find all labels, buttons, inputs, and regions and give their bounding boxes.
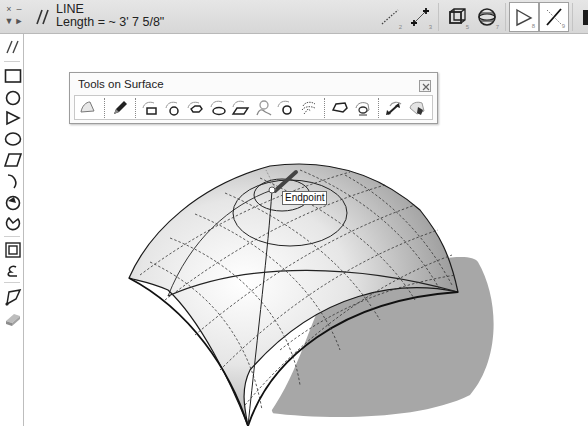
ellipse-tool-button[interactable]: [4, 130, 22, 148]
box-3d-button[interactable]: 5: [442, 2, 472, 32]
polyline-tool-button[interactable]: [4, 288, 22, 306]
line-cross-button[interactable]: 9: [539, 2, 569, 32]
shortcut-label: 5: [466, 24, 469, 30]
rectangle-tool-button[interactable]: [4, 67, 22, 85]
separator: [104, 98, 105, 118]
parallelogram-on-surface-icon: [231, 98, 250, 117]
separator: [378, 98, 379, 118]
eraser-icon: [4, 309, 22, 327]
shortcut-label: 7: [496, 24, 499, 30]
freehand-on-surface-icon: [254, 98, 273, 117]
pencil-icon: [110, 98, 129, 117]
triangle-icon: [4, 109, 22, 127]
endpoint-marker: [269, 187, 275, 193]
shortcut-label: 8: [532, 23, 535, 29]
circle-icon: [4, 89, 22, 107]
text-on-surface-icon: [299, 98, 318, 117]
shortcut-label: 2: [399, 24, 402, 30]
endpoint-tooltip: Endpoint: [282, 191, 327, 205]
separator: [4, 282, 20, 283]
minimize-icon[interactable]: –: [14, 3, 24, 15]
close-icon[interactable]: ×: [4, 3, 14, 15]
separator: [135, 98, 136, 118]
surface-select-icon: [78, 98, 97, 117]
separator: [324, 98, 325, 118]
double-slash-icon: [4, 38, 22, 56]
expand-icon[interactable]: ►: [14, 15, 24, 27]
freehand-icon: [4, 261, 22, 279]
top-toolbar: ×– ▼► LINE Length = ~ 3' 7 5/8" 2 3 5 7 …: [0, 0, 588, 34]
solid-box-icon: [580, 6, 588, 28]
toolbar-title: Tools on Surface: [78, 78, 164, 90]
freehand-tool-button[interactable]: [4, 261, 22, 279]
draw-line-button[interactable]: [109, 97, 130, 118]
arc-icon: [4, 172, 22, 190]
offset-on-surface-button[interactable]: [329, 97, 350, 118]
separator: [438, 3, 439, 31]
polygon-on-surface-icon: [186, 98, 205, 117]
geodesic-on-surface-button[interactable]: [352, 97, 373, 118]
arc-on-surface-button[interactable]: [275, 97, 296, 118]
surface-select-button[interactable]: [77, 97, 98, 118]
parallelogram-on-surface-button[interactable]: [230, 97, 251, 118]
polyline-icon: [4, 288, 22, 306]
tools-on-surface-toolbar[interactable]: Tools on Surface: [69, 72, 438, 124]
offset-square-icon: [4, 241, 22, 259]
dotted-line-button[interactable]: 2: [375, 2, 405, 32]
parallelogram-tool-button[interactable]: [4, 151, 22, 169]
view-toolbar: 2 3 5 7 8 9: [375, 2, 588, 32]
separator: [572, 3, 573, 31]
circle-segment-tool-button[interactable]: [4, 193, 22, 211]
circle-tool-button[interactable]: [4, 89, 22, 107]
close-icon: [421, 82, 431, 92]
shortcut-label: 9: [562, 23, 565, 29]
offset-on-surface-icon: [330, 98, 349, 117]
circle-on-surface-button[interactable]: [163, 97, 184, 118]
paint-on-surface-icon: [407, 98, 426, 117]
pie-tool-button[interactable]: [4, 214, 22, 232]
move-on-surface-button[interactable]: [383, 97, 404, 118]
shortcut-label: 3: [429, 24, 432, 30]
polygon-tool-button[interactable]: [4, 109, 22, 127]
line-tool-button[interactable]: [4, 38, 22, 56]
measurements-box: LINE Length = ~ 3' 7 5/8": [56, 3, 164, 29]
close-toolbar-button[interactable]: [419, 80, 431, 92]
triangle-button[interactable]: 8: [509, 2, 539, 32]
rectangle-on-surface-icon: [141, 98, 160, 117]
offset-tool-button[interactable]: [4, 241, 22, 259]
geodesic-on-surface-icon: [353, 98, 372, 117]
paint-on-surface-button[interactable]: [406, 97, 427, 118]
line-endpoints-button[interactable]: 3: [405, 2, 435, 32]
rectangle-icon: [4, 67, 22, 85]
arc-tool-button[interactable]: [4, 172, 22, 190]
dropdown-icon[interactable]: ▼: [4, 15, 14, 27]
ellipse-on-surface-icon: [209, 98, 228, 117]
arc-on-surface-icon: [276, 98, 295, 117]
circle-on-surface-icon: [164, 98, 183, 117]
separator: [4, 61, 20, 62]
ellipse-icon: [4, 130, 22, 148]
left-drawing-toolbar: [0, 34, 24, 426]
parallelogram-icon: [4, 151, 22, 169]
toolbar-button-row: [74, 95, 433, 120]
polygon-on-surface-button[interactable]: [185, 97, 206, 118]
separator: [4, 236, 20, 237]
length-value: Length = ~ 3' 7 5/8": [56, 16, 164, 29]
rectangle-on-surface-button[interactable]: [140, 97, 161, 118]
sphere-button[interactable]: 7: [472, 2, 502, 32]
solid-box-button[interactable]: [576, 2, 588, 32]
ellipse-on-surface-button[interactable]: [208, 97, 229, 118]
freehand-on-surface-button[interactable]: [253, 97, 274, 118]
move-on-surface-icon: [384, 98, 403, 117]
toolbar-mini-controls: ×– ▼►: [4, 3, 26, 31]
pie-icon: [4, 214, 22, 232]
separator: [505, 3, 506, 31]
text-on-surface-button[interactable]: [298, 97, 319, 118]
line-tool-icon: [32, 6, 54, 28]
circle-segment-icon: [4, 193, 22, 211]
eraser-tool-button[interactable]: [4, 309, 22, 327]
